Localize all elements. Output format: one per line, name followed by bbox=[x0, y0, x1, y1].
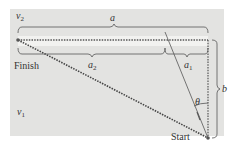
label-a: a bbox=[110, 13, 115, 23]
brace-a1 bbox=[165, 48, 208, 57]
brace-a bbox=[18, 24, 208, 33]
label-a1: a1 bbox=[184, 60, 193, 72]
label-v2: v2 bbox=[16, 11, 24, 23]
label-theta: θ bbox=[195, 97, 200, 107]
diagram-drawing bbox=[0, 0, 236, 153]
river-band bbox=[18, 36, 208, 46]
heading-marker bbox=[197, 112, 200, 120]
label-b: b bbox=[222, 84, 227, 94]
brace-b bbox=[212, 40, 220, 138]
label-finish: Finish bbox=[14, 61, 39, 71]
label-v1: v1 bbox=[17, 107, 25, 119]
heading-line bbox=[165, 32, 208, 138]
label-start: Start bbox=[171, 132, 190, 142]
brace-a2 bbox=[18, 48, 165, 57]
finish-point bbox=[16, 38, 20, 42]
start-point bbox=[206, 136, 210, 140]
diagonal-dotted-path bbox=[18, 40, 208, 138]
label-a2: a2 bbox=[88, 60, 97, 72]
